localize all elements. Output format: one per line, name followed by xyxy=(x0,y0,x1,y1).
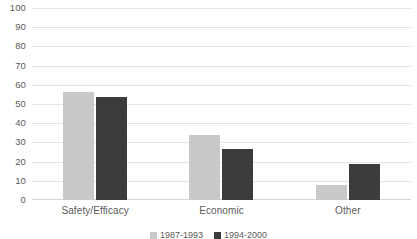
y-axis-tick: 30 xyxy=(0,137,26,147)
y-axis-tick: 100 xyxy=(0,3,26,13)
y-axis-tick: 60 xyxy=(0,80,26,90)
legend-swatch-icon xyxy=(150,232,157,239)
bar-economic-1994-2000[interactable] xyxy=(222,149,253,200)
y-axis-tick: 80 xyxy=(0,41,26,51)
y-axis-tick: 0 xyxy=(0,195,26,205)
bar-economic-1987-1993[interactable] xyxy=(189,135,220,200)
chart-legend: 1987-1993 1994-2000 xyxy=(0,231,417,239)
legend-swatch-icon xyxy=(214,232,221,239)
plot-area xyxy=(32,8,411,200)
y-axis-labels: 100 90 80 70 60 50 40 30 20 10 0 xyxy=(0,8,26,200)
y-axis-tick: 40 xyxy=(0,118,26,128)
bar-chart: 100 90 80 70 60 50 40 30 20 10 0 xyxy=(0,0,417,239)
bar-other-1994-2000[interactable] xyxy=(349,164,380,200)
legend-item-1987-1993[interactable]: 1987-1993 xyxy=(150,231,203,239)
y-axis-tick: 90 xyxy=(0,22,26,32)
bar-group-other xyxy=(285,8,411,200)
bar-safety-efficacy-1994-2000[interactable] xyxy=(96,97,127,200)
legend-label: 1987-1993 xyxy=(160,231,203,239)
bar-group-safety-efficacy xyxy=(32,8,158,200)
x-axis-category-label: Safety/Efficacy xyxy=(32,204,158,217)
bar-other-1987-1993[interactable] xyxy=(316,185,347,200)
legend-label: 1994-2000 xyxy=(224,231,267,239)
y-axis-tick: 20 xyxy=(0,157,26,167)
bar-groups xyxy=(32,8,411,200)
x-axis-category-label: Other xyxy=(285,204,411,217)
x-axis-labels: Safety/Efficacy Economic Other xyxy=(32,204,411,217)
x-axis-category-label: Economic xyxy=(158,204,284,217)
bar-group-economic xyxy=(158,8,284,200)
y-axis-tick: 70 xyxy=(0,61,26,71)
y-axis-tick: 10 xyxy=(0,176,26,186)
y-axis-tick: 50 xyxy=(0,99,26,109)
legend-item-1994-2000[interactable]: 1994-2000 xyxy=(214,231,267,239)
bar-safety-efficacy-1987-1993[interactable] xyxy=(63,92,94,200)
